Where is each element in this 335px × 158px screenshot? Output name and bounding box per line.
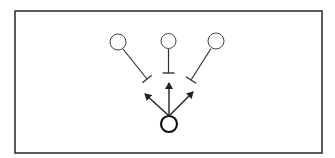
activation-arrow-2	[170, 92, 193, 115]
node-circle-bottom-center	[161, 116, 177, 132]
inhibition-bar-icon	[142, 75, 151, 82]
node-circle-top-right	[208, 33, 224, 49]
node-circle-top-left	[110, 34, 126, 50]
diagram-nodes	[110, 33, 224, 132]
inhibition-edges	[123, 49, 211, 84]
inhibition-edge-top-center	[163, 49, 175, 74]
inhibition-bar-icon	[186, 77, 196, 83]
inhibition-edge-top-left	[123, 49, 152, 83]
diagram-canvas	[0, 0, 335, 158]
inhibition-edge-top-right	[186, 49, 211, 84]
activation-arrow-0	[145, 94, 168, 115]
node-circle-top-center	[161, 34, 176, 49]
activation-edges	[145, 83, 193, 115]
